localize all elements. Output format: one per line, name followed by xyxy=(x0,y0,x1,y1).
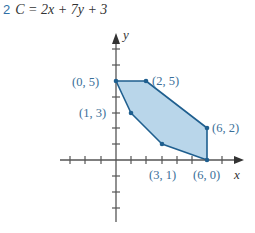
y-axis-label: y xyxy=(121,27,129,42)
x-axis-arrow-icon xyxy=(234,156,244,164)
vertex-6-2 xyxy=(205,126,210,131)
vertex-label-3-1: (3, 1) xyxy=(149,168,176,182)
vertex-label-1-3: (1, 3) xyxy=(79,106,106,120)
vertex-3-1 xyxy=(160,142,165,147)
vertex-1-3 xyxy=(129,111,134,116)
y-axis-arrow-icon xyxy=(112,33,120,44)
vertex-0-5 xyxy=(114,79,119,84)
vertex-label-0-5: (0, 5) xyxy=(72,75,99,89)
vertex-label-6-0: (6, 0) xyxy=(193,168,220,182)
feasible-region-graph: (0, 5) (2, 5) (6, 2) (6, 0) (3, 1) (1, 3… xyxy=(0,0,255,233)
feasible-region xyxy=(116,81,207,160)
x-axis-label: x xyxy=(233,167,240,182)
vertex-2-5 xyxy=(144,79,149,84)
vertex-label-6-2: (6, 2) xyxy=(212,121,239,135)
vertex-label-2-5: (2, 5) xyxy=(152,74,179,88)
vertex-6-0 xyxy=(205,158,210,163)
